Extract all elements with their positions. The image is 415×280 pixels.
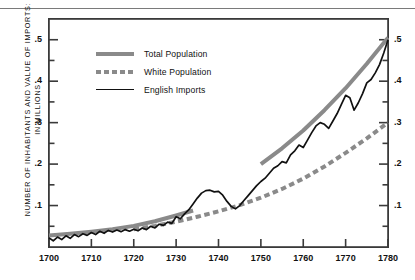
top-rule-divider	[0, 8, 415, 9]
y-tick-label-left: .3	[20, 117, 42, 127]
y-tick-label-right: .1	[394, 200, 402, 210]
x-tick-label: 1730	[158, 253, 194, 263]
y-tick-label-left: .4	[20, 75, 42, 85]
x-tick-label: 1770	[328, 253, 364, 263]
x-tick-label: 1720	[116, 253, 152, 263]
legend-label-white-population: White Population	[144, 67, 211, 77]
legend-item-total-population: Total Population	[96, 46, 211, 61]
x-tick-label: 1710	[73, 253, 109, 263]
white-population-swatch	[96, 66, 134, 78]
legend-item-white-population: White Population	[96, 64, 211, 79]
x-tick-label: 1750	[243, 253, 279, 263]
legend-item-english-imports: English Imports	[96, 82, 211, 97]
y-tick-label-left: .2	[20, 158, 42, 168]
x-tick-label: 1740	[201, 253, 237, 263]
total-population-swatch	[96, 48, 134, 60]
english-imports-swatch	[96, 84, 134, 96]
figure-chart-population-imports: NUMBER OF INHABITANTS AND VALUE OF IMPOR…	[0, 0, 415, 280]
legend-label-english-imports: English Imports	[144, 85, 205, 95]
legend-label-total-population: Total Population	[144, 49, 208, 59]
chart-legend: Total Population White Population Englis…	[96, 46, 211, 100]
y-tick-label-left: .5	[20, 34, 42, 44]
y-tick-label-right: .2	[394, 158, 402, 168]
x-tick-label: 1780	[370, 253, 406, 263]
y-tick-label-right: .4	[394, 75, 402, 85]
y-tick-label-right: .3	[394, 117, 402, 127]
x-tick-label: 1760	[285, 253, 321, 263]
y-tick-label-left: .1	[20, 200, 42, 210]
x-tick-label: 1700	[31, 253, 67, 263]
y-tick-label-right: .5	[394, 34, 402, 44]
